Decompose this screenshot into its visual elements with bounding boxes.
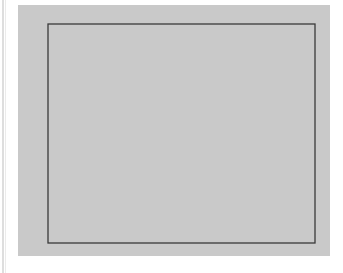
plot-canvas — [0, 0, 343, 273]
axes-group — [48, 24, 315, 243]
plot-frame — [48, 24, 315, 243]
chart-screenshot — [0, 0, 343, 273]
